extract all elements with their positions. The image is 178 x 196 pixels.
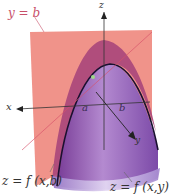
surface-trace-diagram: y = b z x a b y z = f (x,b) z = f (x,y) bbox=[0, 0, 178, 196]
surface-label: z = f (x,y) bbox=[110, 180, 169, 194]
x-axis-label: x bbox=[6, 101, 12, 112]
point-b-label: b bbox=[119, 102, 125, 113]
x-axis-arrow-icon bbox=[16, 106, 23, 112]
trace-curve-label: z = f (x,b) bbox=[2, 174, 62, 188]
intersection-point bbox=[91, 75, 95, 79]
plane-label: y = b bbox=[8, 6, 40, 20]
point-a-label: a bbox=[82, 102, 88, 113]
z-axis-label: z bbox=[99, 0, 104, 10]
y-axis-label: y bbox=[135, 135, 140, 145]
diagram-graphic bbox=[0, 0, 178, 196]
z-axis-arrow-icon bbox=[101, 12, 107, 19]
